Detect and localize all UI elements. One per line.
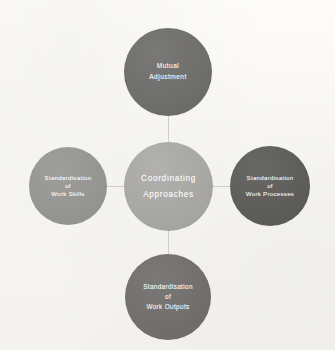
- node-work-skills-line-2: of: [65, 182, 71, 190]
- node-standardisation-of-work-skills[interactable]: Standardisation of Work Skills: [29, 147, 107, 225]
- node-mutual-adjustment[interactable]: Mutual Adjustment: [124, 28, 212, 116]
- node-work-processes-line-1: Standardisation: [247, 174, 294, 182]
- node-standardisation-of-work-processes[interactable]: Standardisation of Work Processes: [230, 146, 310, 226]
- node-coordinating-approaches[interactable]: Coordinating Approaches: [124, 142, 213, 231]
- diagram-canvas: Mutual Adjustment Standardisation of Wor…: [0, 0, 335, 350]
- node-coordinating-approaches-line-1: Coordinating: [141, 171, 196, 187]
- node-mutual-adjustment-line-1: Mutual: [157, 61, 180, 72]
- node-work-processes-line-3: Work Processes: [246, 190, 294, 198]
- node-mutual-adjustment-line-2: Adjustment: [149, 72, 187, 83]
- node-work-outputs-line-3: Work Outputs: [146, 302, 189, 312]
- node-work-skills-line-3: Work Skills: [51, 190, 84, 198]
- node-standardisation-of-work-outputs[interactable]: Standardisation of Work Outputs: [125, 254, 211, 340]
- node-work-outputs-line-2: of: [165, 292, 171, 302]
- node-work-outputs-line-1: Standardisation: [143, 282, 193, 292]
- node-coordinating-approaches-line-2: Approaches: [143, 187, 194, 203]
- node-work-skills-line-1: Standardisation: [45, 174, 92, 182]
- node-work-processes-line-2: of: [267, 182, 273, 190]
